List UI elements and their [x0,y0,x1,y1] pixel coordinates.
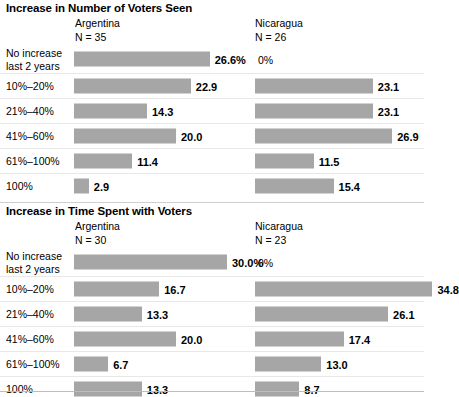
row-label: 21%–40% [6,105,72,118]
bar-value-label-nicaragua: 17.4 [349,333,370,345]
bar-nicaragua [255,382,299,397]
bar-value-label-nicaragua: 26.1 [393,308,414,320]
row-label: 41%–60% [6,130,72,143]
bar-argentina [74,332,176,347]
bottom-rule [0,391,424,392]
bar-argentina [74,154,132,169]
bar-value-label-argentina: 6.7 [113,358,128,370]
bar-value-label-nicaragua: 11.5 [319,155,340,167]
column-header-name: Argentina [75,220,120,234]
row-label: No increase last 2 years [6,47,72,72]
column-header-name: Nicaragua [255,220,303,234]
chart-row: 41%–60%20.017.4 [0,326,424,351]
bar-value-label-nicaragua: 23.1 [378,105,399,117]
bar-nicaragua [255,179,334,194]
chart-rows: No increase last 2 years26.6%0%10%–20%22… [0,45,424,198]
chart-row: 61%–100%6.713.0 [0,351,424,376]
column-header-n: N = 30 [75,234,120,248]
column-headers: Argentina N = 35 Nicaragua N = 26 [0,17,424,45]
column-header-n: N = 35 [75,31,120,45]
bar-value-label-nicaragua: 13.0 [326,358,347,370]
row-label: 61%–100% [6,155,72,168]
bar-nicaragua [255,129,392,144]
bar-value-label-nicaragua: 34.8 [437,283,458,295]
bar-value-label-argentina: 14.3 [152,105,173,117]
chart-rows: No increase last 2 years30.0%0%10%–20%16… [0,248,424,397]
bar-value-label-argentina: 11.4 [137,155,158,167]
panel-title: Increase in Time Spent with Voters [0,203,424,220]
bar-value-label-argentina: 20.0 [181,130,202,142]
column-header-name: Nicaragua [255,17,303,31]
chart-panel-voters-seen: Increase in Number of Voters Seen Argent… [0,0,424,198]
column-header-argentina: Argentina N = 30 [75,220,120,247]
bar-argentina [74,307,142,322]
bar-value-label-argentina: 13.3 [147,308,168,320]
bar-value-label-argentina: 16.7 [164,283,185,295]
column-header-argentina: Argentina N = 35 [75,17,120,44]
chart-row: 41%–60%20.026.9 [0,123,424,148]
bar-nicaragua [255,282,432,297]
bar-argentina [74,357,108,372]
bar-nicaragua [255,154,314,169]
row-label: 100% [6,180,72,193]
bar-argentina [74,79,191,94]
bar-value-label-nicaragua: 0% [258,53,273,65]
bar-value-label-argentina: 2.9 [94,180,109,192]
chart-panel-time-spent: Increase in Time Spent with Voters Argen… [0,203,424,397]
chart-row: 21%–40%13.326.1 [0,301,424,326]
bar-value-label-argentina: 22.9 [196,80,217,92]
bar-argentina [74,282,159,297]
row-label: 10%–20% [6,80,72,93]
row-label: 61%–100% [6,358,72,371]
bar-value-label-argentina: 20.0 [181,333,202,345]
row-label: 21%–40% [6,308,72,321]
bar-value-label-nicaragua: 26.9 [397,130,418,142]
row-label: 10%–20% [6,283,72,296]
row-label: No increase last 2 years [6,250,72,275]
column-headers: Argentina N = 30 Nicaragua N = 23 [0,220,424,248]
panel-title: Increase in Number of Voters Seen [0,0,424,17]
bar-nicaragua [255,332,344,347]
chart-row: 10%–20%22.923.1 [0,73,424,98]
bar-value-label-nicaragua: 0% [258,256,273,268]
bar-argentina [74,255,227,270]
column-header-n: N = 23 [255,234,303,248]
bar-nicaragua [255,307,388,322]
bar-argentina [74,382,142,397]
bar-value-label-nicaragua: 23.1 [378,80,399,92]
chart-row: 100%13.38.7 [0,376,424,397]
bar-argentina [74,129,176,144]
bar-nicaragua [255,79,373,94]
column-header-n: N = 26 [255,31,303,45]
column-header-nicaragua: Nicaragua N = 26 [255,17,303,44]
bar-value-label-argentina: 26.6% [215,53,246,65]
bar-value-label-argentina: 13.3 [147,383,168,395]
bar-value-label-nicaragua: 8.7 [304,383,319,395]
chart-row: 21%–40%14.323.1 [0,98,424,123]
bar-nicaragua [255,104,373,119]
bar-argentina [74,52,210,67]
row-label: 41%–60% [6,333,72,346]
chart-row: No increase last 2 years26.6%0% [0,45,424,73]
chart-row: 100%2.915.4 [0,173,424,198]
bar-value-label-nicaragua: 15.4 [339,180,360,192]
chart-row: 61%–100%11.411.5 [0,148,424,173]
bar-nicaragua [255,357,321,372]
chart-row: 10%–20%16.734.8 [0,276,424,301]
bar-argentina [74,104,147,119]
column-header-name: Argentina [75,17,120,31]
bar-argentina [74,179,89,194]
chart-row: No increase last 2 years30.0%0% [0,248,424,276]
row-label: 100% [6,383,72,396]
column-header-nicaragua: Nicaragua N = 23 [255,220,303,247]
